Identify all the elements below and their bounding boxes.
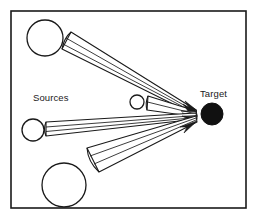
- diagram-canvas: Sources Target: [0, 0, 258, 223]
- source-circle-bottom: [42, 163, 86, 207]
- target-circle: [201, 103, 223, 125]
- source-circle-left: [22, 119, 44, 141]
- source-circle-middle-small: [130, 95, 144, 109]
- figure-root: Sources Target: [0, 0, 258, 223]
- target-label: Target: [200, 88, 227, 99]
- source-circle-top-left: [27, 20, 63, 56]
- sources-label: Sources: [33, 92, 69, 103]
